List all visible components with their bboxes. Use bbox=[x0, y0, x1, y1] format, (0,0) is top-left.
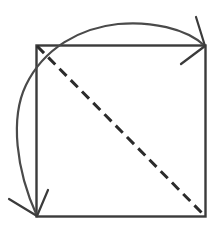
geometry-diagram bbox=[0, 0, 218, 232]
diagram-canvas bbox=[0, 0, 218, 232]
